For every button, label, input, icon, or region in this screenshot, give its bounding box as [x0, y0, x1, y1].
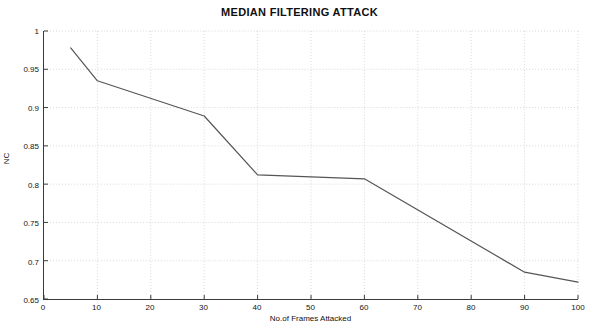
data-series-line: [44, 31, 578, 299]
x-tick-label: 50: [306, 303, 315, 312]
chart-title: MEDIAN FILTERING ATTACK: [0, 6, 599, 18]
y-tick-label: 0.9: [28, 103, 39, 112]
chart-figure: MEDIAN FILTERING ATTACK NC 0.650.70.750.…: [0, 0, 599, 329]
y-tick-label: 0.7: [28, 257, 39, 266]
x-tick-label: 80: [467, 303, 476, 312]
y-tick-label: 0.65: [23, 296, 39, 305]
x-tick-label: 100: [571, 303, 584, 312]
x-tick-label: 10: [92, 303, 101, 312]
y-tick-label: 0.8: [28, 180, 39, 189]
x-tick-label: 60: [360, 303, 369, 312]
x-tick-label: 70: [413, 303, 422, 312]
x-tick-label: 0: [41, 303, 45, 312]
y-axis-tick-labels: 0.650.70.750.80.850.90.951: [0, 31, 39, 300]
x-tick-label: 40: [253, 303, 262, 312]
plot-area: [43, 31, 578, 300]
x-tick-label: 30: [199, 303, 208, 312]
x-tick-label: 20: [146, 303, 155, 312]
y-tick-label: 1: [35, 27, 39, 36]
x-axis-title: No.of Frames Attacked: [43, 314, 578, 323]
y-tick-label: 0.85: [23, 142, 39, 151]
y-tick-label: 0.75: [23, 219, 39, 228]
x-tick-label: 90: [520, 303, 529, 312]
y-tick-label: 0.95: [23, 65, 39, 74]
